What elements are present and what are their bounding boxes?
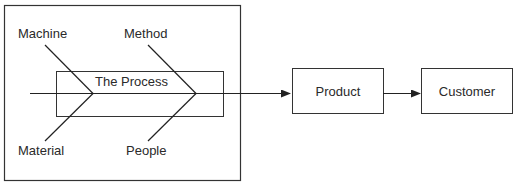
- people-label: People: [126, 144, 166, 158]
- customer-label: Customer: [422, 69, 512, 113]
- method-label: Method: [124, 27, 167, 41]
- people-bone: [148, 94, 196, 142]
- product-label: Product: [293, 69, 383, 113]
- material-bone: [45, 94, 93, 142]
- machine-bone: [45, 45, 93, 94]
- machine-label: Machine: [18, 27, 67, 41]
- process-label: The Process: [95, 75, 168, 89]
- material-label: Material: [18, 144, 64, 158]
